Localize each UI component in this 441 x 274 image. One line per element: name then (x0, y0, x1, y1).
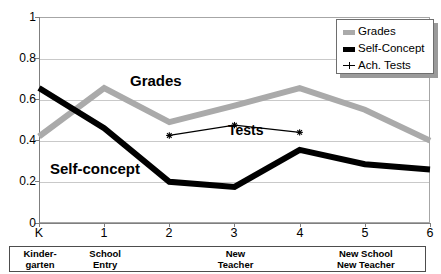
y-axis-line (39, 17, 40, 224)
y-tick-label-0.8: 0.8 (2, 52, 36, 64)
legend-label-ach-tests: Ach. Tests (358, 59, 411, 72)
legend-item-self-concept[interactable]: Self-Concept (342, 40, 429, 57)
x-tick-label-5: 5 (345, 226, 385, 240)
x-tick-label-3: 3 (214, 226, 254, 240)
phase-cell-school-entry: School Entry (50, 249, 160, 270)
legend-swatch-grades-icon (342, 25, 356, 39)
legend-label-grades: Grades (358, 25, 396, 38)
annotation-tests: Tests (228, 122, 264, 138)
phase-cell-new-school-teacher: New School New Teacher (311, 249, 421, 270)
legend-item-grades[interactable]: Grades (342, 23, 429, 40)
annotation-grades: Grades (130, 72, 182, 89)
gridline-0.6 (40, 100, 429, 101)
y-tick-label-0.2: 0.2 (2, 175, 36, 187)
x-tick-label-1: 1 (84, 226, 124, 240)
legend-swatch-self-concept-icon (342, 42, 356, 56)
x-axis-line (39, 223, 431, 224)
chart-root: 1 0.8 0.6 0.4 0.2 0 K 1 2 3 4 5 6 Grades… (0, 0, 441, 274)
legend-item-ach-tests[interactable]: Ach. Tests (342, 57, 429, 74)
phase-cell-new-teacher: New Teacher (181, 249, 291, 270)
x-tick-label-6: 6 (410, 226, 441, 240)
legend-swatch-ach-tests-icon (342, 59, 356, 73)
chart-legend: Grades Self-Concept Ach. Tests (336, 19, 434, 74)
x-tick-label-K: K (19, 226, 59, 240)
annotation-self-concept: Self-concept (50, 160, 140, 177)
y-tick-label-0.6: 0.6 (2, 93, 36, 105)
y-tick-label-1: 1 (2, 11, 36, 23)
gridline-0.4 (40, 141, 429, 142)
x-tick-label-4: 4 (280, 226, 320, 240)
y-tick-label-0.4: 0.4 (2, 134, 36, 146)
legend-label-self-concept: Self-Concept (358, 42, 424, 55)
x-tick-label-2: 2 (149, 226, 189, 240)
phase-timeline-box: Kinder- garten School Entry New Teacher … (9, 246, 426, 272)
gridline-0.2 (40, 182, 429, 183)
